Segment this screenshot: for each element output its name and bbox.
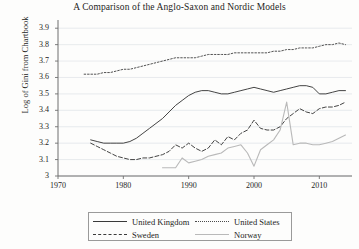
x-tick-label: 1980 [106,182,140,190]
y-tick-label: 3.5 [27,90,49,98]
x-tick-label: 1970 [41,182,75,190]
axis-lines [58,20,352,176]
grid-lines [58,28,352,176]
x-tick-label: 2010 [302,182,336,190]
x-tick-label: 1990 [172,182,206,190]
legend-swatch-light-icon [195,230,229,240]
chart-legend: United Kingdom United States Sweden Norw… [88,212,292,241]
legend-swatch-solid-icon [93,217,127,227]
legend-label-united-states: United States [229,217,280,227]
y-tick-label: 3.7 [27,57,49,65]
series-line-united-kingdom [91,86,346,143]
legend-label-norway: Norway [229,230,261,240]
legend-swatch-dotted-icon [195,217,229,227]
y-tick-label: 3.4 [27,106,49,114]
legend-entry-united-states: United States [195,215,280,228]
series-line-united-states [84,43,345,74]
y-tick-label: 3.8 [27,41,49,49]
legend-label-sweden: Sweden [127,230,159,240]
legend-swatch-dashed-icon [93,230,127,240]
series-line-norway [163,102,346,168]
y-tick-label: 3.3 [27,123,49,131]
y-tick-label: 3.9 [27,24,49,32]
data-series-group [84,43,345,168]
y-tick-label: 3.6 [27,73,49,81]
x-tick-label: 2000 [237,182,271,190]
legend-label-united-kingdom: United Kingdom [127,217,189,227]
legend-entry-norway: Norway [195,228,261,241]
y-tick-label: 3 [27,172,49,180]
chart-figure: A Comparison of the Anglo-Saxon and Nord… [0,0,359,249]
legend-entry-sweden: Sweden [93,228,159,241]
legend-entry-united-kingdom: United Kingdom [93,215,189,228]
series-line-sweden [91,102,346,159]
y-tick-label: 3.2 [27,139,49,147]
y-tick-label: 3.1 [27,156,49,164]
